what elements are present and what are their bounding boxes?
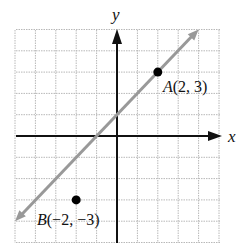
point-a [153,68,162,77]
point-b-label: B(−2, −3) [37,211,99,229]
point-a-label: A(2, 3) [162,78,207,96]
coordinate-plane: x y A(2, 3) B(−2, −3) [0,0,252,251]
x-axis-label: x [227,127,236,146]
y-axis-arrow-icon [112,29,122,44]
y-axis-label: y [110,5,120,24]
x-axis-arrow-icon [208,131,222,141]
line-y-equals-x-plus-1 [15,30,199,222]
point-b [72,195,81,204]
